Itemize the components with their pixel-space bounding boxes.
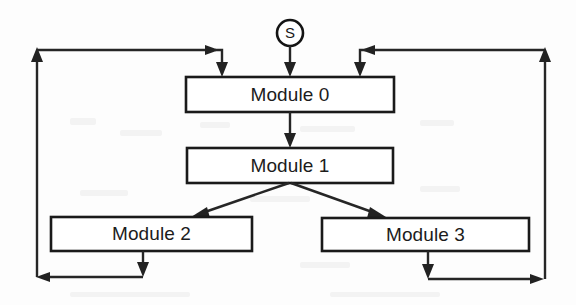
start-node: S xyxy=(277,20,303,46)
diagram-canvas: S Module 0 Module 1 xyxy=(0,0,576,305)
scan-artifacts xyxy=(70,118,460,297)
module-diagram: S Module 0 Module 1 xyxy=(0,0,576,305)
module-2-label: Module 2 xyxy=(112,223,191,244)
module-1-node[interactable]: Module 1 xyxy=(187,148,393,183)
module-1-label: Module 1 xyxy=(251,155,330,176)
module-3-node[interactable]: Module 3 xyxy=(322,218,529,251)
module-0-label: Module 0 xyxy=(251,84,330,105)
start-node-label: S xyxy=(285,24,295,41)
module-2-node[interactable]: Module 2 xyxy=(51,217,252,251)
edge-module0-to-module1 xyxy=(284,112,296,148)
module-3-dropline xyxy=(422,251,434,279)
module-2-dropline xyxy=(137,251,149,277)
edge-start-to-module0 xyxy=(284,46,296,77)
module-0-node[interactable]: Module 0 xyxy=(186,77,394,112)
module-3-label: Module 3 xyxy=(386,224,465,245)
